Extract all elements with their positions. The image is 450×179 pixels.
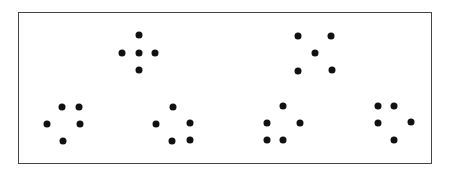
dot [375, 103, 382, 110]
dot [187, 120, 194, 127]
dot [391, 137, 398, 144]
dot [76, 104, 83, 111]
dot [295, 68, 302, 75]
dot [280, 103, 287, 110]
dot [59, 104, 66, 111]
dot [44, 121, 51, 128]
dot [264, 120, 271, 127]
dot [136, 32, 143, 39]
dot [328, 33, 335, 40]
dot [119, 50, 126, 57]
dot [297, 120, 304, 127]
dot [264, 137, 271, 144]
dot [169, 138, 176, 145]
dot [170, 104, 177, 111]
dot [152, 50, 159, 57]
dot [280, 137, 287, 144]
dot [312, 50, 319, 57]
dot [136, 50, 143, 57]
dot [60, 138, 67, 145]
dot [391, 103, 398, 110]
diagram-frame [18, 12, 432, 164]
dot [187, 137, 194, 144]
dot [329, 67, 336, 74]
dot [295, 33, 302, 40]
dot [77, 121, 84, 128]
dot [375, 120, 382, 127]
dot [136, 67, 143, 74]
dot [153, 121, 160, 128]
dot [408, 119, 415, 126]
